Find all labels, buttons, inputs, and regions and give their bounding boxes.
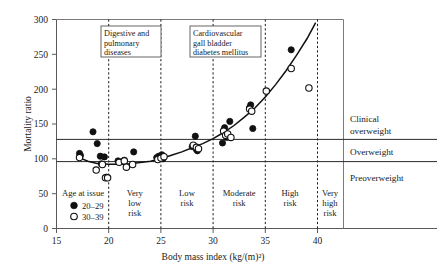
legend-marker-20-29 [71,202,78,209]
legend-title: Age at issue [62,188,104,198]
risk-band-labels: Very low risk Low risk Moderate risk Hig… [127,188,339,218]
legend-label-20-29: 20–29 [82,201,103,211]
x-tick-label: 40 [313,236,323,246]
y-tick-label: 100 [34,154,49,164]
right-label-clinical-2: overweight [350,126,392,136]
x-axis-label: Body mass index (kg/(m)²) [162,252,265,263]
y-tick-label: 200 [34,85,49,95]
annotation-2-line-1: Cardiovascular [193,29,243,38]
x-tick-label: 25 [156,236,166,246]
legend-marker-30-39 [71,213,78,220]
right-band-labels: Clinical overweight Overweight Preoverwe… [350,114,404,183]
risk-label-moderate-2: risk [233,198,247,208]
risk-label-low-2: risk [181,198,195,208]
risk-label-very-high-1: Very [322,188,339,198]
risk-label-very-low-2: low [128,198,142,208]
right-label-overweight: Overweight [350,147,394,157]
risk-label-moderate-1: Moderate [223,188,256,198]
y-tick-label: 150 [34,119,49,129]
chart-legend: Age at issue 20–29 30–39 [62,188,104,222]
x-tick-label: 35 [261,236,271,246]
annotation-cardiovascular: Cardiovascular gall bladder diabetes mel… [190,26,261,57]
y-axis-ticks: 300 250 200 150 100 50 0 [34,15,57,234]
legend-label-30-39: 30–39 [82,212,103,222]
annotation-1-line-1: Digestive and [104,29,149,38]
risk-label-very-low-3: risk [128,208,142,218]
y-tick-label: 50 [39,189,49,199]
annotation-1-line-2: pulmonary [104,39,140,48]
risk-label-very-low-1: Very [127,188,144,198]
x-axis-ticks: 15 20 25 30 35 40 [52,229,323,247]
x-tick-label: 30 [208,236,218,246]
annotation-2-line-2: gall bladder [193,39,232,48]
y-tick-label: 0 [43,224,48,234]
x-tick-label: 15 [52,236,62,246]
x-tick-label: 20 [104,236,114,246]
risk-label-high-1: High [281,188,299,198]
annotation-1-line-3: diseases [104,48,131,57]
risk-label-low-1: Low [179,188,196,198]
annotation-2-line-3: diabetes mellitus [193,48,248,57]
y-axis-label: Mortality ratio [23,96,33,152]
risk-label-very-high-3: risk [324,208,338,218]
annotation-digestive-pulmonary: Digestive and pulmonary diseases [101,26,161,57]
risk-label-high-2: risk [284,198,298,208]
y-tick-label: 250 [34,50,49,60]
chart-svg: 300 250 200 150 100 50 0 15 20 25 30 35 … [0,0,438,278]
right-label-preoverweight: Preoverweight [350,173,404,183]
y-tick-label: 300 [34,15,49,25]
right-label-clinical-1: Clinical [350,114,380,124]
chart-figure: 300 250 200 150 100 50 0 15 20 25 30 35 … [0,0,438,278]
risk-label-very-high-2: high [322,198,338,208]
